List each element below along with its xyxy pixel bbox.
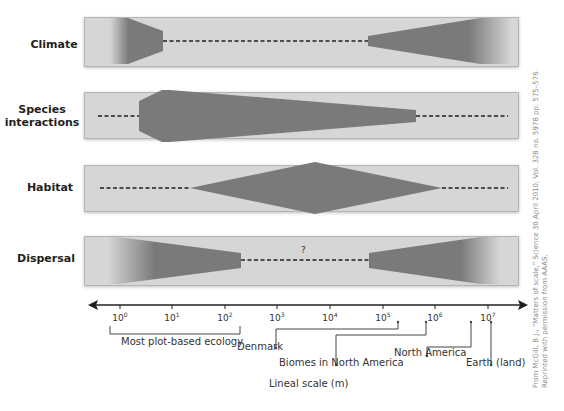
image-credit: From McGill, B J., “Matters of scale,” S… — [532, 69, 550, 388]
axis-title: Lineal scale (m) — [269, 378, 348, 389]
annotation-denmark: Denmark — [237, 341, 283, 352]
annotation-plot-based-ecology: Most plot-based ecology — [121, 336, 243, 347]
credit-line-2: Reprinted with permission from AAAS. — [541, 69, 550, 388]
tick-label-10e0: 100 — [112, 311, 127, 323]
tick-label-10e6: 106 — [427, 311, 442, 323]
annotation-earth-land: Earth (land) — [466, 357, 525, 368]
annotation-biomes-north-america: Biomes in North America — [279, 357, 404, 368]
tick-label-10e1: 101 — [164, 311, 179, 323]
dispersal-unknown-marker: ? — [301, 245, 306, 255]
species-interactions-shapes — [98, 90, 508, 142]
annotation-north-america: North America — [394, 347, 466, 358]
credit-line-1: From McGill, B J., “Matters of scale,” S… — [532, 69, 541, 388]
tick-label-10e7: 107 — [480, 311, 495, 323]
habitat-shapes — [100, 162, 508, 214]
tick-label-10e3: 103 — [269, 311, 284, 323]
tick-label-10e5: 105 — [375, 311, 390, 323]
tick-label-10e2: 102 — [217, 311, 232, 323]
climate-shapes — [110, 18, 512, 64]
scale-axis — [88, 300, 528, 310]
tick-label-10e4: 104 — [322, 311, 337, 323]
